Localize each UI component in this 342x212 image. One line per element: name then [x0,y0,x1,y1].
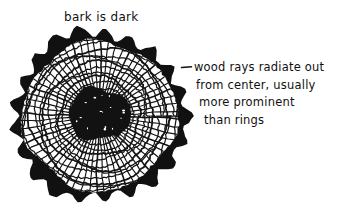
wood-rays-note: wood rays radiate out from center, usual… [194,58,324,128]
pith-speckle [112,128,113,130]
pith-speckle [122,112,124,114]
wood-rays-note-line-4: than rings [194,110,324,127]
pith-speckle [79,117,82,118]
pith-speckle [109,95,110,97]
wood-rays-note-line-2: from center, usually [194,75,324,92]
pith-speckle [102,111,103,112]
wood-rays-note-line-1: wood rays radiate out [194,58,324,75]
leader-line [182,67,192,68]
pith-speckle [120,118,121,120]
pith-speckle [100,111,103,112]
pith-speckle [101,95,103,96]
pith-speckle [104,128,106,131]
pith-speckle [110,107,112,108]
pith-speckle [122,110,125,112]
pith-speckle [105,126,107,128]
pith-speckle [76,120,78,122]
pith-speckle [84,102,87,103]
bark-label: bark is dark [64,8,139,25]
wood-ray [100,131,105,199]
pith-speckle [87,127,88,129]
illustration-page: bark is dark wood rays radiate out from … [0,0,342,212]
wood-rays-note-line-3: more prominent [194,93,324,110]
pith-speckle [93,97,96,99]
